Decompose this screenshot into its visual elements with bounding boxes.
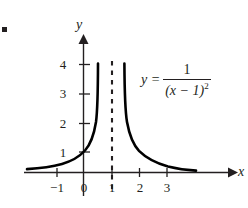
x-tick-label-0: 0 [72,181,96,194]
y-tick-label-4: 4 [54,58,72,71]
figure-graph-of-rational-function: y x −1 0 1 2 3 1 2 3 4 y = 1 (x − 1)2 [0,0,248,208]
x-tick-label-1: 1 [100,181,124,194]
x-tick-label-2: 2 [128,181,152,194]
equation-denominator-base: (x − 1) [165,83,204,98]
y-tick-label-1: 1 [54,146,72,159]
y-axis-label: y [76,18,82,32]
equation-denominator: (x − 1)2 [163,80,211,99]
y-tick-label-2: 2 [54,117,72,130]
y-tick-label-3: 3 [54,87,72,100]
plot-canvas [0,0,248,208]
y-axis-ticks [79,65,90,153]
equation-annotation: y = 1 (x − 1)2 [141,62,211,99]
equation-lhs: y = [141,72,160,88]
y-axis [79,34,89,196]
equation-numerator: 1 [175,62,198,79]
equation-fraction: 1 (x − 1)2 [163,62,211,99]
x-axis-label: x [238,165,244,179]
x-tick-label--1: −1 [45,181,69,194]
equation-denominator-exponent: 2 [204,81,209,91]
x-axis [24,168,238,178]
x-tick-label-3: 3 [155,181,179,194]
